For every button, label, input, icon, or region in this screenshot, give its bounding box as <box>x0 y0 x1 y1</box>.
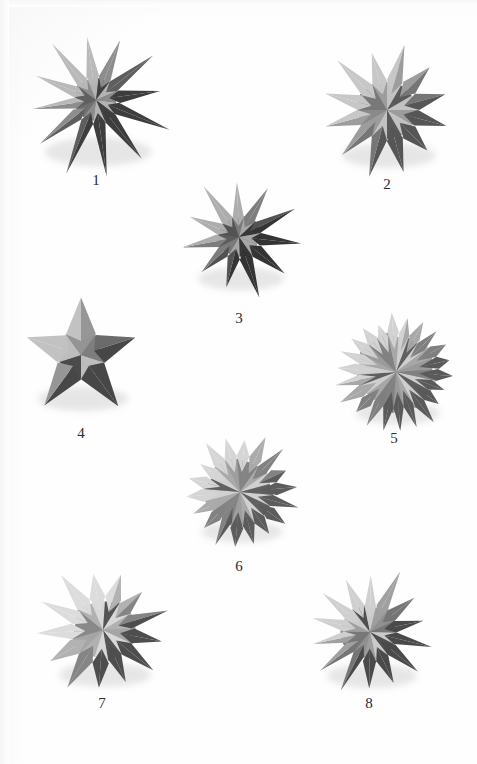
stellated-polyhedron-6 <box>175 427 305 557</box>
figure-caption-5: 5 <box>364 430 424 446</box>
figure-7 <box>31 558 175 702</box>
plate-page: 12345678 <box>0 0 477 764</box>
stellated-polyhedron-1 <box>14 18 178 182</box>
figure-2 <box>314 37 460 183</box>
figure-4 <box>10 284 152 426</box>
figure-caption-6: 6 <box>209 558 269 574</box>
stellated-polyhedron-5 <box>329 305 463 439</box>
stellated-polyhedron-4 <box>10 284 152 426</box>
figure-caption-3: 3 <box>209 310 269 326</box>
figure-3 <box>171 169 307 305</box>
figure-1 <box>14 18 178 182</box>
figure-caption-4: 4 <box>51 425 111 441</box>
plate-top-edge <box>0 0 477 7</box>
stellated-polyhedron-8 <box>299 561 441 703</box>
figure-caption-7: 7 <box>72 695 132 711</box>
stellated-polyhedron-3 <box>171 169 307 305</box>
figure-caption-1: 1 <box>66 172 126 188</box>
stellated-polyhedron-7 <box>31 558 175 702</box>
plate-left-edge <box>0 0 9 764</box>
figure-caption-8: 8 <box>339 695 399 711</box>
figure-caption-2: 2 <box>357 176 417 192</box>
figure-8 <box>299 561 441 703</box>
stellated-polyhedron-2 <box>314 37 460 183</box>
figure-5 <box>329 305 463 439</box>
figure-6 <box>175 427 305 557</box>
